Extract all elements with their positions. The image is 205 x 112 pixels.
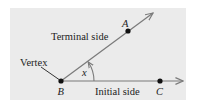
point-c-label: C xyxy=(156,86,164,97)
angle-diagram-svg: Terminal side Vertex Initial side A B C … xyxy=(0,0,205,112)
point-a xyxy=(125,28,130,33)
point-c xyxy=(157,78,162,83)
vertex-label: Vertex xyxy=(20,57,48,68)
terminal-side-label: Terminal side xyxy=(51,31,109,42)
initial-side-label: Initial side xyxy=(95,86,140,97)
point-b-label: B xyxy=(58,86,65,97)
angle-diagram: Terminal side Vertex Initial side A B C … xyxy=(0,0,205,112)
point-b xyxy=(58,78,63,83)
point-a-label: A xyxy=(121,18,129,29)
angle-x-label: x xyxy=(81,67,87,78)
